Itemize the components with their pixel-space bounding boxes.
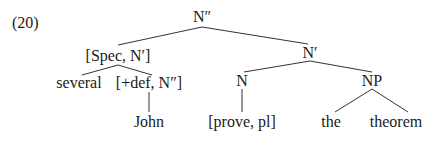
edge-np-the: [335, 89, 372, 112]
edge-root-spec: [118, 27, 202, 45]
node-root: N″: [193, 8, 211, 26]
leaf-prove: [prove, pl]: [208, 113, 276, 131]
edge-nbar-n: [244, 61, 310, 72]
node-nbar: N′: [302, 44, 317, 62]
leaf-theorem: theorem: [370, 113, 422, 131]
edge-root-nbar: [202, 27, 308, 44]
edge-np-theorem: [372, 89, 408, 112]
leaf-john: John: [134, 113, 164, 131]
node-np: NP: [362, 72, 382, 90]
node-n: N: [236, 72, 248, 90]
node-def: [+def, N″]: [116, 74, 182, 92]
node-spec: [Spec, N′]: [86, 47, 151, 65]
edge-nbar-np: [310, 61, 372, 72]
example-number: (20): [12, 14, 39, 32]
leaf-the: the: [321, 113, 341, 131]
node-several: several: [56, 74, 101, 92]
